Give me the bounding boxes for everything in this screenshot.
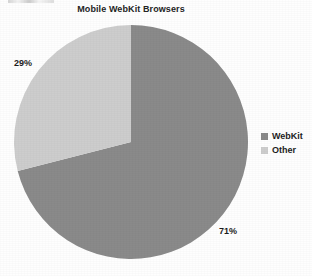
legend-swatch-other — [261, 147, 268, 154]
legend-item-webkit[interactable]: WebKit — [261, 130, 312, 143]
chart-legend: WebKit Other — [261, 130, 312, 158]
legend-item-other[interactable]: Other — [261, 144, 312, 157]
pie-chart-figure: Mobile WebKit Browsers 29% 71% WebKit Ot… — [0, 0, 312, 276]
pie-svg — [13, 24, 249, 260]
page-scan-artifact — [8, 0, 54, 3]
legend-label-webkit: WebKit — [272, 132, 303, 141]
legend-swatch-webkit — [261, 133, 268, 140]
legend-label-other: Other — [272, 146, 296, 155]
pie-plot-area: 29% 71% — [0, 0, 262, 276]
pie-label-webkit: 71% — [219, 226, 237, 236]
pie-label-other: 29% — [14, 58, 32, 68]
